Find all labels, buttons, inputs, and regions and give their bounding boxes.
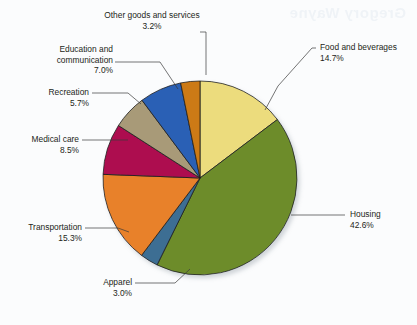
slice-label-food-and-beverages-value: 14.7% xyxy=(320,53,415,64)
slice-label-medical-care: Medical care 8.5% xyxy=(3,134,79,155)
slice-label-education: Education and communication 7.0% xyxy=(5,44,113,76)
pie-chart-figure: Gregory Wayne Food and beverages 14.7%Ho… xyxy=(0,0,417,325)
slice-label-apparel-value: 3.0% xyxy=(52,288,132,299)
leader-line-education xyxy=(115,62,178,89)
slice-label-apparel-name: Apparel xyxy=(52,277,132,288)
slice-label-education-name-line2: communication xyxy=(5,55,113,66)
slice-label-food-and-beverages-name: Food and beverages xyxy=(320,42,415,53)
pie-slices-group: Food and beverages 14.7%Housing 42.6%App… xyxy=(103,81,297,275)
slice-label-education-value: 7.0% xyxy=(5,65,113,76)
leader-line-other-goods xyxy=(200,32,206,75)
slice-label-other-goods-value: 3.2% xyxy=(77,21,227,32)
leader-line-food xyxy=(265,48,316,110)
slice-label-other-goods: Other goods and services 3.2% xyxy=(77,10,227,31)
slice-label-recreation: Recreation 5.7% xyxy=(5,87,89,108)
slice-label-apparel: Apparel 3.0% xyxy=(52,277,132,298)
slice-label-medical-care-name: Medical care xyxy=(3,134,79,145)
slice-label-transportation: Transportation 15.3% xyxy=(2,222,82,243)
slice-label-transportation-name: Transportation xyxy=(2,222,82,233)
slice-label-food-and-beverages: Food and beverages 14.7% xyxy=(320,42,415,63)
slice-label-transportation-value: 15.3% xyxy=(2,233,82,244)
slice-label-housing-value: 42.6% xyxy=(350,220,412,231)
slice-label-recreation-value: 5.7% xyxy=(5,98,89,109)
slice-label-medical-care-value: 8.5% xyxy=(3,145,79,156)
leader-line-recreation xyxy=(92,93,141,104)
slice-label-education-name-line1: Education and xyxy=(5,44,113,55)
slice-label-housing-name: Housing xyxy=(350,209,412,220)
slice-label-recreation-name: Recreation xyxy=(5,87,89,98)
slice-label-housing: Housing 42.6% xyxy=(350,209,412,230)
slice-label-other-goods-name: Other goods and services xyxy=(77,10,227,21)
